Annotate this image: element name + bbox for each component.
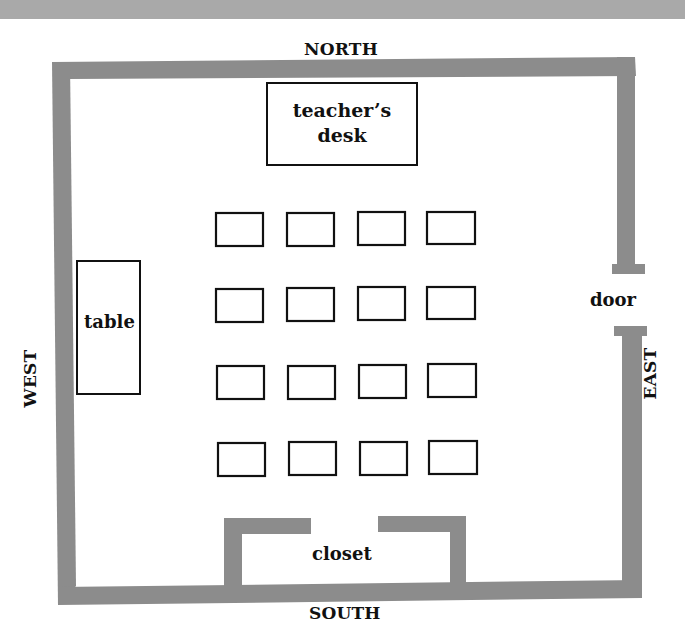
east-label: EAST bbox=[642, 350, 659, 400]
student-desks bbox=[216, 212, 477, 476]
student-desk bbox=[216, 213, 263, 246]
closet-wall-right-side bbox=[450, 516, 466, 584]
closet-wall-left-side bbox=[224, 518, 242, 586]
teachers-desk-label: teacher’s desk bbox=[267, 98, 417, 148]
student-desk bbox=[360, 442, 407, 475]
west-label: WEST bbox=[22, 349, 39, 409]
student-desk bbox=[216, 289, 263, 322]
student-desk bbox=[428, 364, 476, 397]
south-label: SOUTH bbox=[309, 605, 381, 622]
student-desk bbox=[287, 288, 334, 321]
student-desk bbox=[287, 213, 334, 246]
north-label: NORTH bbox=[304, 41, 378, 58]
student-desk bbox=[289, 442, 336, 475]
closet-label: closet bbox=[312, 545, 372, 563]
student-desk bbox=[217, 366, 264, 399]
student-desk bbox=[358, 212, 405, 245]
north-wall bbox=[52, 57, 636, 79]
door-jamb-upper bbox=[612, 264, 645, 274]
east-wall-upper bbox=[617, 57, 635, 267]
student-desk bbox=[218, 443, 265, 476]
south-wall bbox=[58, 580, 642, 605]
student-desk bbox=[427, 212, 475, 244]
student-desk bbox=[427, 287, 475, 319]
student-desk bbox=[359, 365, 406, 398]
door-label: door bbox=[590, 291, 636, 309]
teachers-desk-label-line2: desk bbox=[267, 123, 417, 148]
student-desk bbox=[358, 287, 405, 320]
table-label: table bbox=[84, 313, 135, 331]
west-wall bbox=[52, 62, 76, 605]
teachers-desk-label-line1: teacher’s bbox=[267, 98, 417, 123]
student-desk bbox=[429, 441, 477, 474]
student-desk bbox=[288, 366, 335, 399]
